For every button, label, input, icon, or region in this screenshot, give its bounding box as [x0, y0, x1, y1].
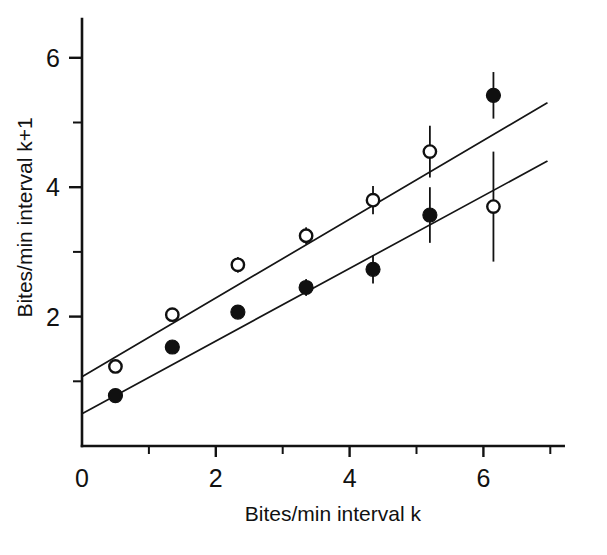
- x-tick-label: 2: [209, 464, 223, 492]
- open-circle-marker: [424, 145, 436, 157]
- x-tick-label: 6: [476, 464, 490, 492]
- y-tick-label: 4: [46, 173, 60, 201]
- filled-circle-marker: [486, 88, 500, 102]
- regression-lines-group: [82, 103, 547, 414]
- regression-line-filled-circles: [82, 161, 547, 413]
- open-circle-marker: [166, 308, 178, 320]
- open-circle-marker: [367, 194, 379, 206]
- open-circle-marker: [109, 360, 121, 372]
- regression-line-open-circles: [82, 103, 547, 377]
- scatter-figure: 0246246 Bites/min interval k Bites/min i…: [0, 0, 607, 555]
- axes-group: [82, 19, 564, 446]
- open-circle-marker: [232, 259, 244, 271]
- partial-caption: [0, 541, 607, 555]
- open-circle-marker: [300, 230, 312, 242]
- y-axis-title: Bites/min interval k+1: [13, 117, 36, 317]
- x-tick-label: 0: [75, 464, 89, 492]
- x-axis-title: Bites/min interval k: [245, 502, 422, 525]
- error-bars-group: [238, 72, 494, 319]
- filled-circle-marker: [299, 280, 313, 294]
- x-tick-label: 4: [343, 464, 357, 492]
- filled-circle-marker: [231, 305, 245, 319]
- open-circle-marker: [487, 200, 499, 212]
- filled-circle-marker: [366, 262, 380, 276]
- filled-circle-marker: [165, 340, 179, 354]
- filled-circle-marker: [108, 389, 122, 403]
- y-tick-label: 2: [46, 303, 60, 331]
- filled-circle-marker: [423, 208, 437, 222]
- axis-ticks-group: [69, 58, 550, 457]
- plot-canvas: 0246246 Bites/min interval k Bites/min i…: [0, 0, 607, 555]
- y-tick-label: 6: [46, 44, 60, 72]
